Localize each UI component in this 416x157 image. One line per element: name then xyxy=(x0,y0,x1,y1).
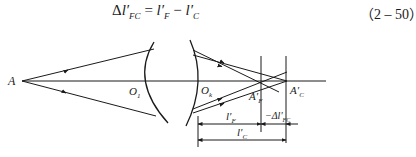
optics-diagram: A O1 Ok A′F A′C l′F −Δl′FC l′C xyxy=(0,0,416,157)
arrow-upper-emerge2 xyxy=(220,66,222,67)
ray-upper-incident xyxy=(22,49,154,81)
lens-surface-1 xyxy=(145,42,168,123)
arrow-lower-emerge2 xyxy=(222,103,224,104)
label-lF: l′F xyxy=(226,110,236,125)
label-object-A: A xyxy=(7,74,16,88)
arrow-lower-emerge xyxy=(220,98,222,99)
label-lC: l′C xyxy=(237,126,247,141)
label-delta-lFC: −Δl′FC xyxy=(265,110,291,123)
lens-surface-k xyxy=(186,40,198,126)
label-AC: A′C xyxy=(289,84,304,99)
label-Ok: Ok xyxy=(201,84,213,99)
label-O1: O1 xyxy=(129,85,140,100)
